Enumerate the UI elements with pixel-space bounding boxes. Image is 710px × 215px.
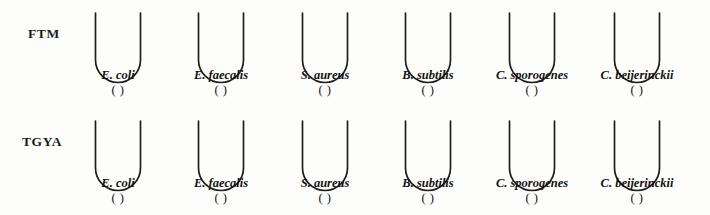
- tube-cell: C. beijerinckii( ): [577, 2, 697, 107]
- result-answer-slot[interactable]: ( ): [101, 191, 134, 206]
- result-answer-slot[interactable]: ( ): [301, 191, 350, 206]
- tube-caption: C. sporogenes( ): [496, 176, 568, 206]
- tube-cell: E. faecalis( ): [161, 2, 281, 107]
- species-label: E. coli: [101, 68, 134, 82]
- species-label: B. subtilis: [402, 176, 453, 190]
- tube-cell: B. subtilis( ): [368, 2, 488, 107]
- species-label: S. aureus: [301, 176, 350, 190]
- tube-caption: E. coli( ): [101, 176, 134, 206]
- species-label: E. coli: [101, 176, 134, 190]
- result-answer-slot[interactable]: ( ): [194, 191, 248, 206]
- tube-caption: E. faecalis( ): [194, 68, 248, 98]
- species-label: S. aureus: [301, 68, 350, 82]
- tube-caption: C. beijerinckii( ): [601, 68, 674, 98]
- species-label: B. subtilis: [402, 68, 453, 82]
- media-row-ftm: FTME. coli( )E. faecalis( )S. aureus( )B…: [0, 2, 710, 107]
- media-row-tgya: TGYAE. coli( )E. faecalis( )S. aureus( )…: [0, 110, 710, 215]
- tube-caption: E. faecalis( ): [194, 176, 248, 206]
- species-label: C. beijerinckii: [601, 68, 674, 82]
- result-answer-slot[interactable]: ( ): [194, 83, 248, 98]
- result-answer-slot[interactable]: ( ): [496, 83, 568, 98]
- species-label: E. faecalis: [194, 68, 248, 82]
- tube-cell: E. faecalis( ): [161, 110, 281, 215]
- media-label-tgya: TGYA: [22, 134, 62, 150]
- result-answer-slot[interactable]: ( ): [496, 191, 568, 206]
- result-answer-slot[interactable]: ( ): [402, 191, 453, 206]
- result-answer-slot[interactable]: ( ): [101, 83, 134, 98]
- tube-caption: B. subtilis( ): [402, 68, 453, 98]
- tube-cell: E. coli( ): [58, 2, 178, 107]
- species-label: C. beijerinckii: [601, 176, 674, 190]
- result-answer-slot[interactable]: ( ): [301, 83, 350, 98]
- tube-caption: E. coli( ): [101, 68, 134, 98]
- species-label: C. sporogenes: [496, 176, 568, 190]
- tube-cell: B. subtilis( ): [368, 110, 488, 215]
- tube-cell: C. sporogenes( ): [472, 110, 592, 215]
- tube-cell: E. coli( ): [58, 110, 178, 215]
- tube-caption: S. aureus( ): [301, 68, 350, 98]
- species-label: C. sporogenes: [496, 68, 568, 82]
- tube-caption: C. sporogenes( ): [496, 68, 568, 98]
- result-answer-slot[interactable]: ( ): [601, 83, 674, 98]
- media-label-ftm: FTM: [28, 26, 60, 42]
- tube-caption: C. beijerinckii( ): [601, 176, 674, 206]
- result-answer-slot[interactable]: ( ): [402, 83, 453, 98]
- result-answer-slot[interactable]: ( ): [601, 191, 674, 206]
- tube-cell: C. sporogenes( ): [472, 2, 592, 107]
- tube-cell: S. aureus( ): [265, 2, 385, 107]
- tube-caption: B. subtilis( ): [402, 176, 453, 206]
- tube-cell: S. aureus( ): [265, 110, 385, 215]
- species-label: E. faecalis: [194, 176, 248, 190]
- tube-caption: S. aureus( ): [301, 176, 350, 206]
- culture-tube-worksheet: FTME. coli( )E. faecalis( )S. aureus( )B…: [0, 0, 710, 215]
- tube-cell: C. beijerinckii( ): [577, 110, 697, 215]
